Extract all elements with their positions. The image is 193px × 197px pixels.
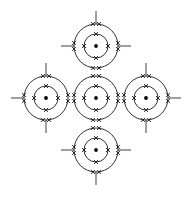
- nucleus-dot: [144, 96, 148, 100]
- atom-bottom: [61, 126, 131, 185]
- diagram-canvas: [0, 0, 193, 197]
- atomic-bonding-diagram: [0, 0, 193, 197]
- atom-center: [72, 74, 120, 122]
- atom-left: [11, 63, 70, 133]
- atom-top: [61, 11, 131, 70]
- atom-right: [122, 63, 181, 133]
- nucleus-dot: [94, 44, 98, 48]
- nucleus-dot: [94, 148, 98, 152]
- nucleus-dot: [94, 96, 98, 100]
- nucleus-dot: [44, 96, 48, 100]
- atoms-layer: [11, 11, 181, 185]
